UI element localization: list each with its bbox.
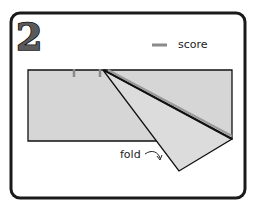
score-legend-label: score xyxy=(178,38,208,51)
fold-label: fold xyxy=(120,148,141,161)
origami-step-diagram: 2 score fold xyxy=(0,0,256,207)
step-number: 2 xyxy=(16,14,42,59)
